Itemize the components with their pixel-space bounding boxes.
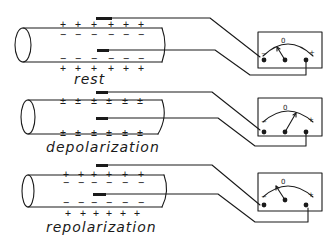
outer-electrode	[96, 91, 260, 130]
svg-text:−: −	[91, 29, 97, 40]
svg-text:+: +	[123, 63, 129, 74]
label-rest: rest	[74, 71, 105, 87]
svg-text:−: −	[63, 177, 69, 188]
svg-text:+: +	[134, 208, 140, 219]
minus-terminal	[262, 203, 267, 208]
svg-text:±: ±	[75, 127, 81, 138]
svg-text:−: −	[122, 197, 128, 208]
meter-plus-label: +	[308, 191, 314, 199]
inner-bottom-charges: − − − − − −	[63, 197, 144, 208]
membrane-potential-diagram: + + + + + + − − − − − − − − − − − − + + …	[0, 0, 334, 245]
voltmeter: 0 − +	[258, 98, 322, 136]
voltmeter: 0 − +	[258, 173, 322, 211]
svg-text:−: −	[138, 29, 144, 40]
svg-text:±: ±	[91, 95, 97, 106]
svg-text:±: ±	[137, 127, 143, 138]
svg-text:−: −	[123, 29, 129, 40]
label-depolarization: depolarization	[46, 139, 160, 155]
svg-text:−: −	[91, 177, 97, 188]
voltmeter: 0 − +	[258, 32, 322, 68]
plus-terminal	[304, 203, 309, 208]
meter-scale-arc	[263, 186, 313, 197]
svg-text:−: −	[138, 197, 144, 208]
inner-top-charges: − − − − − −	[63, 177, 144, 188]
svg-text:−: −	[63, 197, 69, 208]
meter-zero-label: 0	[281, 178, 285, 186]
svg-text:±: ±	[60, 95, 66, 106]
svg-text:+: +	[120, 208, 126, 219]
svg-text:+: +	[80, 208, 86, 219]
minus-terminal	[262, 58, 267, 63]
meter-scale-arc	[263, 44, 313, 56]
svg-text:+: +	[108, 63, 114, 74]
plus-terminal	[304, 58, 309, 63]
svg-text:−: −	[106, 197, 112, 208]
meter-plus-label: +	[308, 116, 314, 124]
svg-text:−: −	[108, 29, 114, 40]
svg-text:±: ±	[122, 127, 128, 138]
outer-electrode	[96, 164, 260, 205]
svg-text:+: +	[65, 208, 71, 219]
svg-text:+: +	[60, 63, 66, 74]
svg-text:±: ±	[60, 127, 66, 138]
meter-needle	[277, 47, 285, 60]
svg-text:−: −	[78, 177, 84, 188]
outer-electrode	[96, 17, 260, 57]
svg-text:±: ±	[91, 127, 97, 138]
svg-text:−: −	[122, 177, 128, 188]
inner-bottom-charges: ± ± ± ± ± ±	[60, 127, 143, 138]
svg-text:±: ±	[122, 95, 128, 106]
svg-text:+: +	[106, 208, 112, 219]
label-repolarization: repolarization	[46, 219, 157, 235]
meter-plus-label: +	[309, 49, 315, 57]
meter-zero-label: 0	[283, 104, 287, 112]
svg-text:−: −	[60, 29, 66, 40]
meter-scale-arc	[263, 111, 313, 122]
minus-terminal	[262, 130, 267, 135]
meter-needle	[285, 113, 296, 132]
svg-text:±: ±	[75, 95, 81, 106]
svg-text:±: ±	[106, 127, 112, 138]
svg-text:−: −	[91, 197, 97, 208]
meter-minus-label: −	[261, 193, 267, 201]
meter-zero-label: 0	[281, 37, 285, 45]
svg-text:−: −	[138, 177, 144, 188]
plus-terminal	[304, 130, 309, 135]
panel-rest: + + + + + + − − − − − − − − − − − − + + …	[15, 17, 322, 87]
svg-text:−: −	[75, 29, 81, 40]
inner-top-charges: − − − − − −	[60, 29, 144, 40]
panel-repolarization: + + + + + + − − − − − − − − − − − − + + …	[22, 164, 322, 235]
svg-text:−: −	[78, 197, 84, 208]
meter-minus-label: −	[261, 118, 267, 126]
meter-minus-label: −	[261, 50, 267, 58]
meter-needle	[276, 186, 285, 200]
outer-bottom-charges: + + + + + +	[65, 208, 140, 219]
svg-text:−: −	[106, 177, 112, 188]
svg-text:±: ±	[106, 95, 112, 106]
panel-depolarization: ± ± ± ± ± ± ± ± ± ± ± ± depolarization 0…	[21, 91, 322, 155]
svg-text:+: +	[93, 208, 99, 219]
svg-text:+: +	[138, 63, 144, 74]
svg-text:±: ±	[137, 95, 143, 106]
